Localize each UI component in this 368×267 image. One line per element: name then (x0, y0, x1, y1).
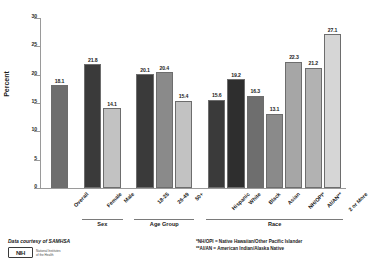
category-label: Black (267, 191, 281, 205)
y-tick-label: 20 (31, 70, 40, 76)
bar[interactable] (227, 79, 244, 188)
bar[interactable] (266, 114, 283, 188)
nih-wordmark-line1: National Institutes (36, 249, 61, 253)
category-label: 50+ (194, 191, 205, 202)
bar-value-label: 22.3 (289, 54, 299, 60)
group-label: Race (206, 221, 343, 227)
category-label: Female (105, 191, 122, 208)
bar-column[interactable]: 19.2 (227, 18, 244, 188)
bar-column[interactable]: 20.1 (136, 18, 153, 188)
footnote-nhopi: *NH/OPI = Native Hawaiian/Other Pacific … (196, 238, 302, 245)
nih-logo-mark: NIH (8, 247, 33, 258)
bar[interactable] (247, 96, 264, 188)
bar-column[interactable]: 21.8 (84, 18, 101, 188)
category-label: 2 or More (347, 191, 368, 212)
bar[interactable] (285, 62, 302, 188)
group-rule (82, 219, 123, 220)
bar-value-label: 19.2 (231, 72, 241, 78)
y-axis-line (40, 18, 41, 188)
category-label: 26-49 (176, 191, 190, 205)
bar-value-label: 16.3 (251, 88, 261, 94)
x-axis-line (40, 188, 346, 189)
bar-column[interactable]: 20.4 (156, 18, 173, 188)
bar[interactable] (103, 108, 120, 188)
bar[interactable] (136, 74, 153, 188)
group-label: Age Group (134, 221, 194, 227)
bar-value-label: 27.1 (328, 27, 338, 33)
bar-column[interactable]: 22.3 (285, 18, 302, 188)
bar-value-label: 20.4 (160, 65, 170, 71)
bar[interactable] (324, 34, 341, 188)
bar-value-label: 15.6 (212, 92, 222, 98)
bar-value-label: 18.1 (55, 78, 65, 84)
category-label: Overall (72, 191, 89, 208)
bar[interactable] (51, 85, 68, 188)
bar[interactable] (156, 72, 173, 188)
bar-value-label: 21.2 (308, 60, 318, 66)
footnotes: *NH/OPI = Native Hawaiian/Other Pacific … (196, 238, 302, 252)
bar-value-label: 13.1 (270, 106, 280, 112)
bar-value-label: 21.8 (88, 57, 98, 63)
y-tick-label: 5 (34, 155, 40, 161)
bar-column[interactable]: 15.4 (175, 18, 192, 188)
bar-column[interactable]: 16.3 (247, 18, 264, 188)
nih-logo: NIH National Institutes of the Health (8, 247, 61, 258)
bar[interactable] (208, 100, 225, 188)
bar[interactable] (305, 68, 322, 188)
bar-column[interactable]: 15.6 (208, 18, 225, 188)
bar-column[interactable]: 18.1 (51, 18, 68, 188)
bar[interactable] (84, 64, 101, 188)
footnote-aian: **AI/AN = American Indian/Alaska Native (196, 245, 302, 252)
bar[interactable] (175, 101, 192, 188)
bar-column[interactable]: 14.1 (103, 18, 120, 188)
y-tick-label: 25 (31, 41, 40, 47)
y-tick-label: 15 (31, 98, 40, 104)
category-label: 18-25 (156, 191, 170, 205)
y-tick-label: 10 (31, 126, 40, 132)
category-label: AI/AN** (326, 191, 344, 209)
group-label: Sex (82, 221, 123, 227)
bar-column[interactable]: 13.1 (266, 18, 283, 188)
nih-wordmark-line2: of the Health (36, 253, 61, 257)
bar-value-label: 20.1 (140, 67, 150, 73)
y-tick-label: 30 (31, 13, 40, 19)
bar-value-label: 15.4 (179, 93, 189, 99)
bar-value-label: 14.1 (107, 101, 117, 107)
bar-column[interactable]: 21.2 (305, 18, 322, 188)
nih-logo-wordmark: National Institutes of the Health (36, 249, 61, 257)
bar-column[interactable]: 27.1 (324, 18, 341, 188)
group-rule (206, 219, 343, 220)
data-credit: Data courtesy of SAMHSA (8, 238, 70, 244)
category-label: Male (123, 191, 136, 204)
group-rule (134, 219, 194, 220)
category-label: NH/OPI* (307, 191, 326, 210)
category-label: Asian (286, 191, 301, 206)
y-axis-title: Percent (3, 71, 10, 97)
y-tick-label: 0 (34, 183, 40, 189)
category-label: White (248, 191, 263, 206)
